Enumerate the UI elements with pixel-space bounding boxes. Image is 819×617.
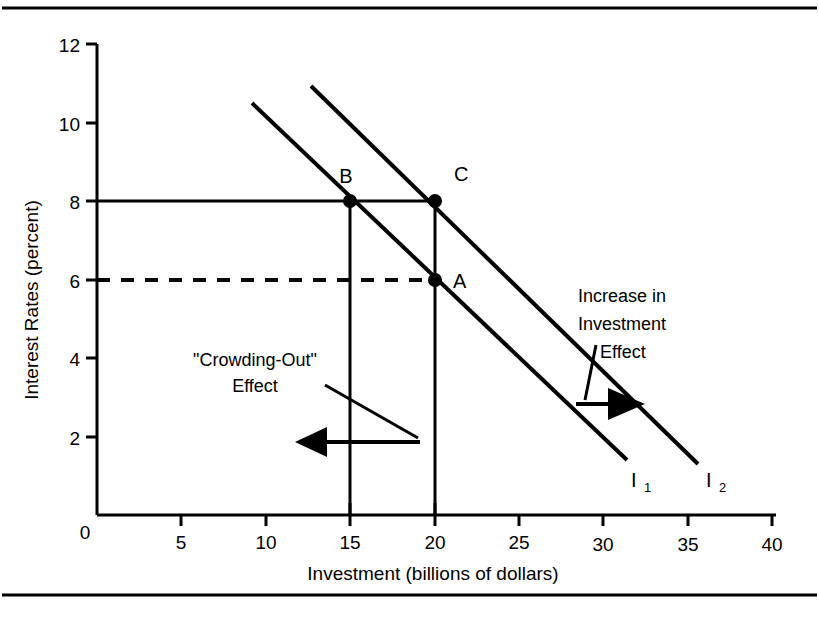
x-axis-title: Investment (billions of dollars): [307, 563, 558, 584]
curve-label-i2: I 2: [706, 469, 726, 495]
curve-i2: [311, 86, 698, 464]
investment-demand-chart: 12 10 8 6 4 2 0 5 10 15 20 25 30 35 40 I…: [0, 0, 819, 617]
curve-label-i1-main: I: [631, 469, 637, 491]
crowding-out-line-2: Effect: [232, 376, 278, 396]
y-tick-label-12: 12: [59, 35, 80, 56]
data-point-label-b: B: [339, 165, 352, 187]
x-tick-label-5: 5: [176, 532, 187, 553]
x-tick-label-10: 10: [255, 532, 276, 553]
curve-label-i1: I 1: [631, 469, 651, 495]
increase-investment-line-1: Increase in: [578, 286, 666, 306]
data-point-a: [428, 273, 442, 287]
data-point-c: [428, 194, 442, 208]
increase-in-investment-annotation: Increase in Investment Effect: [576, 286, 666, 420]
x-tick-label-30: 30: [592, 534, 613, 555]
y-axis-title: Interest Rates (percent): [21, 200, 42, 400]
data-point-b: [343, 194, 357, 208]
crowding-out-left-arrow: [295, 427, 420, 457]
origin-label: 0: [80, 522, 91, 543]
curve-label-i1-sub: 1: [644, 480, 651, 495]
y-tick-label-4: 4: [69, 349, 80, 370]
y-tick-label-10: 10: [59, 114, 80, 135]
data-point-label-a: A: [453, 270, 467, 292]
x-tick-label-20: 20: [424, 532, 445, 553]
x-tick-label-35: 35: [677, 534, 698, 555]
x-tick-label-40: 40: [761, 534, 782, 555]
crowding-out-annotation: "Crowding-Out" Effect: [193, 350, 420, 457]
crowding-out-leader-line: [325, 385, 418, 438]
data-point-label-c: C: [454, 163, 468, 185]
increase-investment-line-2: Investment: [578, 314, 666, 334]
curve-label-i2-main: I: [706, 469, 712, 491]
y-axis-ticks: [86, 44, 97, 437]
x-tick-label-15: 15: [339, 532, 360, 553]
curve-label-i2-sub: 2: [719, 480, 726, 495]
x-tick-label-25: 25: [508, 532, 529, 553]
y-tick-label-6: 6: [69, 271, 80, 292]
y-tick-label-2: 2: [69, 428, 80, 449]
y-tick-label-8: 8: [69, 192, 80, 213]
figure-container: 12 10 8 6 4 2 0 5 10 15 20 25 30 35 40 I…: [0, 0, 819, 617]
crowding-out-line-1: "Crowding-Out": [193, 350, 317, 370]
increase-investment-line-3: Effect: [600, 342, 646, 362]
